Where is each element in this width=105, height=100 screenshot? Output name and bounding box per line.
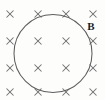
field-cross-icon — [63, 65, 70, 72]
field-cross-icon — [7, 65, 14, 72]
field-cross-icon — [63, 38, 70, 45]
magnetic-field-label: B — [87, 20, 95, 32]
field-cross-icon — [35, 38, 42, 45]
magnetic-field-diagram: B — [0, 0, 105, 100]
diagram-canvas: B — [0, 0, 105, 100]
field-cross-row-3 — [7, 65, 97, 72]
conducting-loop-circle — [14, 15, 92, 93]
field-cross-icon — [35, 65, 42, 72]
field-cross-icon — [7, 38, 14, 45]
field-cross-row-2 — [7, 38, 97, 45]
field-cross-icon — [7, 89, 14, 96]
field-cross-icon — [90, 11, 97, 18]
field-cross-icon — [90, 89, 97, 96]
field-cross-icon — [7, 11, 14, 18]
field-cross-row-1 — [7, 11, 97, 18]
